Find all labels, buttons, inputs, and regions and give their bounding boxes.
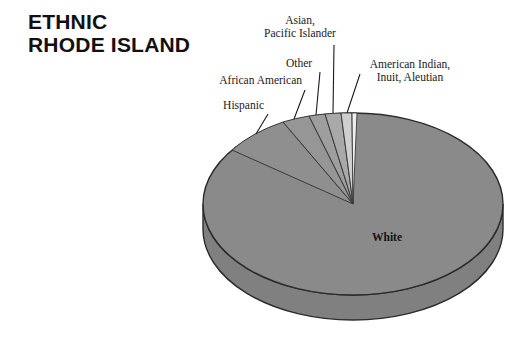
slice-label-american-indian: American Indian, Inuit, Aleutian <box>345 58 475 83</box>
leader-line-other <box>316 72 320 115</box>
chart-page: ETHNIC RHODE ISLAND <box>0 0 526 338</box>
slice-label-other: Other <box>272 57 326 70</box>
slice-label-african-american: African American <box>178 74 302 87</box>
leader-line-asian-pacific-islander <box>333 45 334 113</box>
slice-label-white: White <box>352 231 422 243</box>
leader-line-african-american <box>294 90 305 119</box>
ethnic-rhode-island-pie-chart <box>0 0 526 338</box>
slice-label-hispanic: Hispanic <box>190 99 264 112</box>
slice-label-asian-pacific-islander: Asian, Pacific Islander <box>242 14 358 39</box>
